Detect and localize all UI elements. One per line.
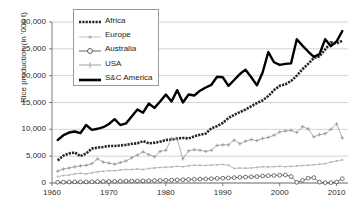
series-marker [336,160,338,162]
series-marker [301,178,305,182]
series-marker [74,173,76,175]
series-marker [209,177,213,181]
series-marker [159,166,161,168]
series-marker [187,178,191,182]
series-marker [142,169,144,171]
series-marker [118,179,122,183]
series-marker [124,179,128,183]
series-marker [318,180,322,184]
series-marker [245,167,247,169]
series-marker [188,165,190,167]
series-marker [319,163,321,165]
legend-key-africa-icon [77,14,103,26]
series-marker [227,176,231,180]
series-marker [330,161,332,163]
legend-item-usa: USA [77,56,156,70]
y-tick-label: 5,000 [12,151,46,160]
series-marker [301,165,303,167]
series-marker [205,165,207,167]
series-marker [284,166,286,168]
x-tick-label: 2000 [263,188,297,197]
x-tick-label: 1980 [149,188,183,197]
series-marker [114,170,116,172]
series-marker [272,174,276,178]
series-marker [341,159,343,161]
x-tick-label: 1960 [35,188,69,197]
series-marker [175,178,179,182]
series-marker [135,179,139,183]
series-marker [181,178,185,182]
series-line [58,160,343,177]
series-marker [119,169,121,171]
series-marker [131,169,133,171]
series-marker [290,165,292,167]
series-marker [306,176,310,180]
series-marker [296,165,298,167]
legend-label-sc-america: S&C America [103,73,153,82]
series-marker [216,164,218,166]
series-marker [255,175,259,179]
series-marker [176,165,178,167]
series-marker [278,173,282,177]
series-marker [313,164,315,166]
series-marker [222,163,224,165]
series-marker [107,179,111,183]
series-marker [233,168,235,170]
x-tick-label: 1970 [92,188,126,197]
series-marker [266,174,270,178]
series-marker [250,167,252,169]
series-marker [295,180,299,184]
series-marker [312,176,316,180]
series-marker [249,175,253,179]
series-marker [67,180,71,184]
series-line [58,124,343,171]
legend-label-australia: Australia [103,44,136,53]
series-marker [108,170,110,172]
y-tick-label: 15,000 [12,98,46,107]
series-marker [192,177,196,181]
series-marker [227,164,229,166]
series-marker [148,168,150,170]
series-marker [84,180,88,184]
series-marker [62,174,64,176]
series-marker [85,173,87,175]
series-marker [61,180,65,184]
series-marker [283,173,287,177]
series-marker [130,179,134,183]
series-marker [199,164,201,166]
series-marker [91,172,93,174]
legend-item-australia: Australia [77,42,156,56]
series-marker [239,167,241,169]
y-tick-label: 10,000 [12,124,46,133]
series-marker [164,178,168,182]
series-marker [329,181,333,185]
legend-label-europe: Europe [103,30,131,39]
series-marker [141,179,145,183]
chart-legend: Africa Europe Australia USA S&C America [73,9,159,86]
series-marker [256,166,258,168]
y-tick-label: 25,000 [12,44,46,53]
series-marker [68,174,70,176]
legend-item-africa: Africa [77,13,156,27]
series-marker [279,165,281,167]
y-tick-label: 0 [12,178,46,187]
x-tick-label: 1990 [206,188,240,197]
series-marker [57,176,59,178]
legend-key-sc-america-icon [77,72,103,84]
series-marker [171,166,173,168]
legend-label-usa: USA [103,59,121,68]
series-marker [136,168,138,170]
series-marker [340,177,344,181]
legend-key-europe-icon [77,29,103,41]
legend-item-sc-america: S&C America [77,71,156,85]
series-marker [125,169,127,171]
series-europe [57,159,344,178]
series-marker [267,166,269,168]
series-marker [215,177,219,181]
series-marker [153,167,155,169]
series-marker [204,177,208,181]
series-marker [153,179,157,183]
series-marker [56,180,60,184]
series-marker [73,180,77,184]
series-marker [210,164,212,166]
